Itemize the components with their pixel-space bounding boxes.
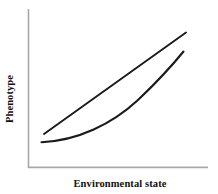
- series-line-curved: [42, 52, 184, 143]
- y-axis-label: Phenotype: [4, 75, 15, 123]
- plot-area: [0, 0, 218, 194]
- x-axis-label: Environmental state: [74, 178, 167, 189]
- reaction-norm-figure: Phenotype Environmental state: [0, 0, 218, 194]
